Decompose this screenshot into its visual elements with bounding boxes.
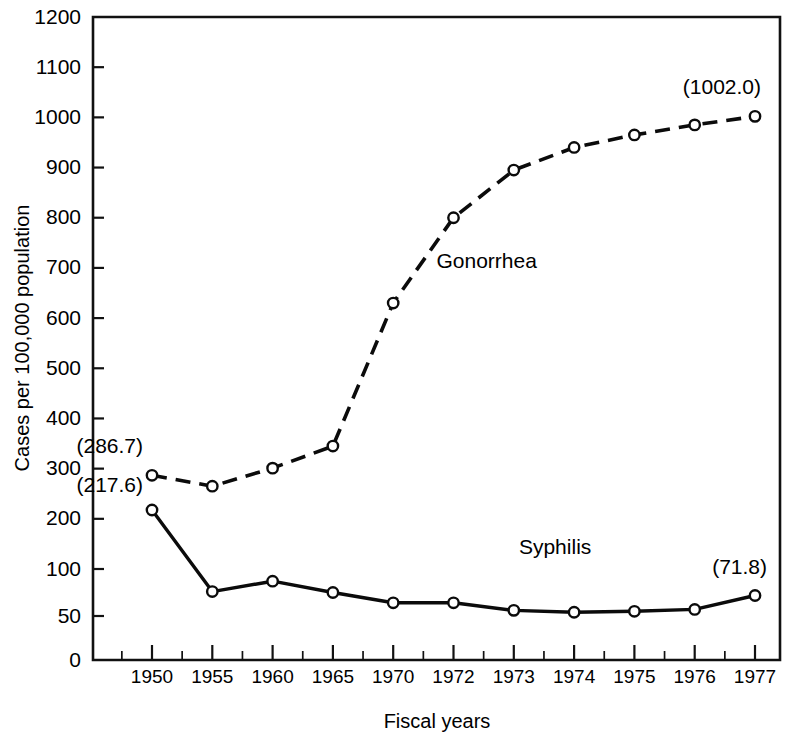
- y-axis-tick-label: 50: [58, 604, 81, 627]
- y-axis-tick-label: 900: [46, 155, 81, 178]
- point-value-annotation: (1002.0): [683, 75, 761, 98]
- data-point-marker: [267, 576, 277, 586]
- point-value-annotation: (286.7): [76, 434, 143, 457]
- y-axis-tick-label: 600: [46, 306, 81, 329]
- y-axis-tick-label: 200: [46, 506, 81, 529]
- data-point-marker: [388, 298, 398, 308]
- y-axis-tick-label: 800: [46, 205, 81, 228]
- point-value-annotation: (71.8): [712, 555, 767, 578]
- point-value-annotation: (217.6): [76, 473, 143, 496]
- data-point-marker: [690, 120, 700, 130]
- data-point-marker: [147, 505, 157, 515]
- plot-frame: [93, 17, 780, 660]
- data-point-marker: [147, 470, 157, 480]
- data-point-marker: [448, 598, 458, 608]
- x-axis-tick-label: 1950: [131, 666, 173, 687]
- x-axis-tick-label: 1977: [734, 666, 776, 687]
- x-axis-tick-label: 1972: [432, 666, 474, 687]
- y-axis-tick-label: 500: [46, 356, 81, 379]
- data-point-marker: [267, 463, 277, 473]
- series-label-syphilis: Syphilis: [519, 535, 591, 558]
- x-axis-title: Fiscal years: [384, 710, 491, 732]
- x-axis-tick-labels: 1950195519601965197019721973197419751976…: [131, 666, 776, 687]
- data-point-marker: [750, 590, 760, 600]
- y-axis-tick-labels: 0501002003004005006007008009001000110012…: [34, 5, 81, 671]
- data-point-marker: [750, 111, 760, 121]
- data-point-marker: [629, 606, 639, 616]
- data-point-annotations: (286.7)(1002.0)(217.6)(71.8): [76, 75, 767, 577]
- x-axis-tick-label: 1976: [674, 666, 716, 687]
- x-axis-tick-label: 1975: [613, 666, 655, 687]
- data-point-markers: [147, 111, 760, 617]
- series-line-gonorrhea: [152, 116, 755, 486]
- data-point-marker: [328, 441, 338, 451]
- x-axis-tick-label: 1970: [372, 666, 414, 687]
- data-point-marker: [388, 598, 398, 608]
- data-point-marker: [509, 605, 519, 615]
- series-label-gonorrhea: Gonorrhea: [437, 249, 538, 272]
- data-point-marker: [448, 213, 458, 223]
- data-point-marker: [569, 607, 579, 617]
- data-point-marker: [207, 586, 217, 596]
- y-axis-tick-label: 1100: [36, 55, 81, 78]
- y-axis-tick-label: 100: [46, 557, 81, 580]
- x-axis-tick-label: 1974: [553, 666, 596, 687]
- chart-canvas: 0501002003004005006007008009001000110012…: [0, 0, 785, 742]
- axis-ticks: [93, 67, 755, 660]
- series-inline-labels: GonorrheaSyphilis: [437, 249, 592, 558]
- data-point-marker: [509, 165, 519, 175]
- y-axis-tick-label: 400: [46, 406, 81, 429]
- y-axis-tick-label: 1200: [34, 5, 81, 28]
- y-axis-tick-label: 0: [69, 648, 81, 671]
- x-axis-tick-label: 1973: [493, 666, 535, 687]
- data-point-marker: [207, 481, 217, 491]
- line-chart: 0501002003004005006007008009001000110012…: [0, 0, 785, 742]
- axes: [93, 17, 780, 660]
- data-series: [152, 116, 755, 612]
- x-axis-tick-label: 1965: [312, 666, 354, 687]
- data-point-marker: [328, 587, 338, 597]
- y-axis-title: Cases per 100,000 population: [11, 205, 33, 472]
- data-point-marker: [629, 130, 639, 140]
- y-axis-tick-label: 1000: [34, 105, 81, 128]
- x-axis-tick-label: 1955: [191, 666, 233, 687]
- data-point-marker: [569, 142, 579, 152]
- y-axis-tick-label: 700: [46, 255, 81, 278]
- x-axis-tick-label: 1960: [251, 666, 293, 687]
- data-point-marker: [690, 604, 700, 614]
